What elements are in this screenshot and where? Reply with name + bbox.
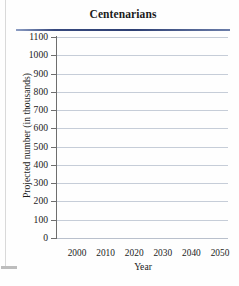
y-axis-tick [51,92,56,93]
chart-title: Centenarians [16,7,230,21]
title-underline-rule [16,29,230,31]
y-axis-tick-label: 800 [8,87,48,97]
gridline [56,92,228,93]
gridline [56,201,228,202]
gridline [56,165,228,166]
gridline [56,37,228,38]
x-axis-tick-label: 2050 [205,248,235,258]
y-axis-tick [51,165,56,166]
y-axis-tick-label: 700 [8,105,48,115]
y-axis-tick-label-wrap: 300 [6,178,48,188]
x-axis-tick-label: 2030 [148,248,178,258]
y-axis-line [56,36,57,239]
x-axis-tick-label: 2040 [176,248,206,258]
gridline [56,128,228,129]
x-axis-title: Year [56,261,230,272]
y-axis-tick [51,55,56,56]
gridline [56,147,228,148]
gridline [56,110,228,111]
y-axis-tick-label-wrap: 0 [6,233,48,243]
y-axis-tick [51,238,56,239]
y-axis-tick-label-wrap: 100 [6,215,48,225]
y-axis-tick [51,183,56,184]
y-axis-tick-label: 0 [8,233,48,243]
y-axis-tick-label-wrap: 900 [6,69,48,79]
gridline [56,183,228,184]
plot-area [56,37,228,238]
y-axis-tick-label: 300 [8,178,48,188]
y-axis-tick-label-wrap: 500 [6,142,48,152]
gridline [56,55,228,56]
y-axis-tick-label: 1100 [8,32,48,42]
y-axis-tick-label-wrap: 700 [6,105,48,115]
page-gutter-mark [1,266,17,269]
y-axis-tick-label-wrap: 600 [6,123,48,133]
gridline [56,238,228,239]
chart-figure: Centenarians Projected number (in thousa… [0,0,239,286]
x-axis-tick-label: 2010 [91,248,121,258]
y-axis-tick [51,220,56,221]
y-axis-tick [51,147,56,148]
y-axis-tick-label: 400 [8,160,48,170]
y-axis-tick [51,37,56,38]
y-axis-tick-label: 200 [8,196,48,206]
x-axis-tick-label: 2020 [119,248,149,258]
gridline [56,220,228,221]
y-axis-tick-label-wrap: 200 [6,196,48,206]
gridline [56,74,228,75]
y-axis-tick-label-wrap: 400 [6,160,48,170]
y-axis-tick-label-wrap: 1000 [6,50,48,60]
y-axis-tick-label: 100 [8,215,48,225]
y-axis-tick [51,74,56,75]
x-axis-tick-label: 2000 [62,248,92,258]
y-axis-tick-label: 900 [8,69,48,79]
y-axis-tick [51,201,56,202]
y-axis-tick-label: 1000 [8,50,48,60]
y-axis-tick-label-wrap: 800 [6,87,48,97]
y-axis-tick-label: 500 [8,142,48,152]
y-axis-tick-label-wrap: 1100 [6,32,48,42]
y-axis-tick-label: 600 [8,123,48,133]
y-axis-tick [51,110,56,111]
y-axis-tick [51,128,56,129]
